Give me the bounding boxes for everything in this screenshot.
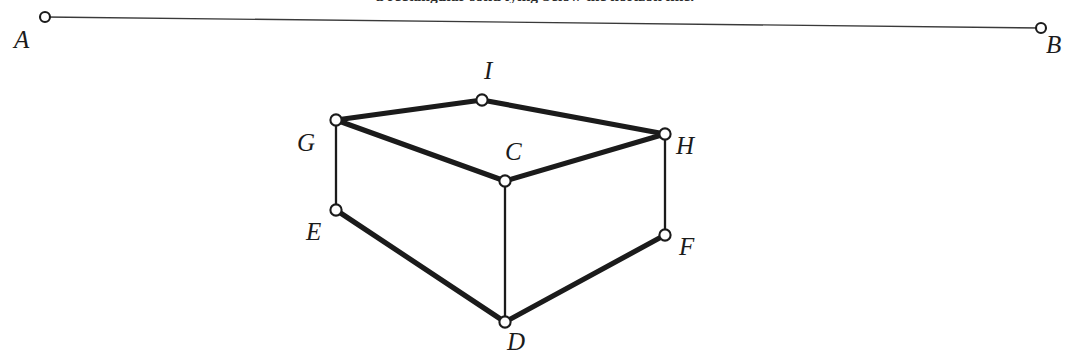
vertex-marker-i[interactable] <box>476 94 487 105</box>
edge-layer <box>45 17 1041 322</box>
vertex-marker-d[interactable] <box>499 316 510 327</box>
vertex-label-b: B <box>1046 32 1061 57</box>
edge-C-G <box>336 120 505 181</box>
edge-H-C <box>505 134 665 181</box>
vertex-marker-g[interactable] <box>330 114 341 125</box>
vertex-marker-f[interactable] <box>659 229 670 240</box>
edge-D-F <box>505 235 665 322</box>
vertex-marker-h[interactable] <box>659 128 670 139</box>
vertex-label-f: F <box>679 234 694 259</box>
edge-E-D <box>336 210 505 322</box>
vertex-label-i: I <box>484 58 492 83</box>
vertex-label-e: E <box>306 219 321 244</box>
vertex-label-d: D <box>507 329 525 354</box>
vertex-marker-c[interactable] <box>499 175 510 186</box>
vertex-label-h: H <box>676 133 694 158</box>
vertex-marker-e[interactable] <box>330 204 341 215</box>
vertex-label-a: A <box>14 27 29 52</box>
vertex-marker-b[interactable] <box>1036 23 1046 33</box>
perspective-box-figure <box>0 0 1070 360</box>
vertex-marker-a[interactable] <box>40 12 50 22</box>
edge-A-B <box>45 17 1041 28</box>
vertex-label-g: G <box>297 130 315 155</box>
edge-I-H <box>482 100 665 134</box>
vertex-label-c: C <box>505 139 522 164</box>
edge-G-I <box>336 100 482 120</box>
diagram-canvas: a rectangular solid lying below the hori… <box>0 0 1070 360</box>
